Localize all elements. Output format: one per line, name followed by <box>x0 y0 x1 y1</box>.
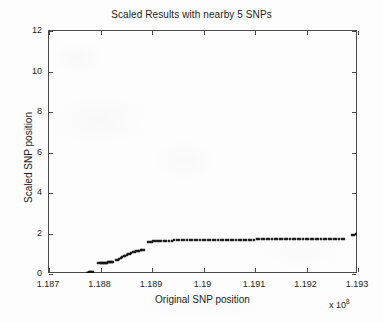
scatter-marker <box>107 261 110 264</box>
y-axis-label: Scaled SNP position <box>23 78 34 238</box>
scatter-marker <box>98 262 101 265</box>
scatter-marker <box>322 237 325 240</box>
scatter-marker <box>332 237 335 240</box>
scatter-marker <box>87 271 90 273</box>
scatter-marker <box>204 238 207 241</box>
x-tick-label: 1.193 <box>346 279 369 289</box>
scatter-marker <box>265 238 268 241</box>
scatter-marker <box>154 240 157 243</box>
scatter-marker <box>103 261 106 264</box>
scatter-marker <box>211 238 214 241</box>
scatter-marker <box>309 237 312 240</box>
x-tick-mark <box>358 268 359 272</box>
scatter-marker <box>109 261 112 264</box>
scatter-marker <box>327 237 330 240</box>
scatter-marker <box>224 238 227 241</box>
scatter-marker <box>150 240 153 243</box>
scatter-marker <box>133 250 136 253</box>
scatter-marker <box>325 237 328 240</box>
scatter-marker <box>219 238 222 241</box>
scatter-marker <box>156 240 159 243</box>
scatter-marker <box>245 238 248 241</box>
scatter-marker <box>168 239 171 242</box>
scatter-marker <box>237 238 240 241</box>
scatter-marker <box>343 237 346 240</box>
scatter-marker <box>114 259 117 262</box>
y-tick-mark-right <box>352 274 356 275</box>
scatter-marker <box>350 233 353 236</box>
y-tick-label: 10 <box>14 66 42 76</box>
scatter-marker <box>121 256 124 259</box>
scatter-marker <box>312 237 315 240</box>
scatter-marker <box>122 255 125 258</box>
scatter-marker <box>229 238 232 241</box>
scatter-marker <box>281 238 284 241</box>
scatter-marker <box>147 241 150 244</box>
scatter-marker <box>106 261 109 264</box>
scatter-marker <box>232 238 235 241</box>
scatter-marker <box>111 261 114 264</box>
scatter-marker <box>273 238 276 241</box>
scatter-marker <box>291 237 294 240</box>
scatter-marker <box>186 239 189 242</box>
scatter-marker <box>136 249 139 252</box>
scatter-marker <box>124 254 127 257</box>
scatter-marker <box>307 237 310 240</box>
scatter-marker <box>234 238 237 241</box>
scatter-marker <box>175 239 178 242</box>
scatter-marker <box>105 261 108 264</box>
x-tick-label: 1.191 <box>243 279 266 289</box>
exponent-base: x 10 <box>329 300 346 310</box>
scatter-marker <box>148 240 151 243</box>
scatter-marker <box>201 238 204 241</box>
figure-canvas: Scaled Results with nearby 5 SNPs 1.1871… <box>0 0 383 322</box>
scatter-marker <box>162 239 165 242</box>
scatter-marker <box>214 238 217 241</box>
scatter-marker <box>188 239 191 242</box>
scatter-marker <box>90 271 93 273</box>
scatter-marker <box>289 238 292 241</box>
scatter-marker <box>304 237 307 240</box>
x-tick-mark-top <box>358 31 359 35</box>
scatter-marker <box>88 271 91 273</box>
scatter-marker <box>253 238 256 241</box>
scatter-marker <box>127 253 130 256</box>
scatter-marker <box>206 238 209 241</box>
scatter-marker <box>247 238 250 241</box>
scatter-marker <box>278 238 281 241</box>
scatter-marker <box>173 239 176 242</box>
scatter-marker <box>99 262 102 265</box>
x-axis-label: Original SNP position <box>48 294 357 305</box>
scatter-series-layer <box>48 30 357 273</box>
scatter-marker <box>271 238 274 241</box>
scatter-marker <box>335 237 338 240</box>
scatter-marker <box>119 257 122 260</box>
scatter-marker <box>92 270 95 273</box>
scatter-marker <box>299 237 302 240</box>
scatter-marker <box>142 249 145 252</box>
x-tick-label: 1.192 <box>294 279 317 289</box>
scatter-marker <box>128 252 131 255</box>
scatter-marker <box>196 239 199 242</box>
scatter-marker <box>340 237 343 240</box>
scatter-marker <box>131 251 134 254</box>
scatter-marker <box>222 238 225 241</box>
scatter-marker <box>258 238 261 241</box>
scatter-marker <box>100 262 103 265</box>
scatter-marker <box>296 237 299 240</box>
scatter-marker <box>242 238 245 241</box>
scatter-marker <box>158 240 161 243</box>
scatter-marker <box>116 258 119 261</box>
exponent-power: 8 <box>346 298 350 305</box>
scatter-marker <box>319 237 322 240</box>
scatter-marker <box>110 261 113 264</box>
x-tick-label: 1.187 <box>37 279 60 289</box>
scatter-marker <box>314 237 317 240</box>
scatter-marker <box>354 233 357 236</box>
y-tick-label: 12 <box>14 25 42 35</box>
scatter-marker <box>89 271 92 273</box>
scatter-marker <box>330 237 333 240</box>
scatter-marker <box>191 239 194 242</box>
scatter-marker <box>352 233 355 236</box>
y-tick-label: 0 <box>14 268 42 278</box>
